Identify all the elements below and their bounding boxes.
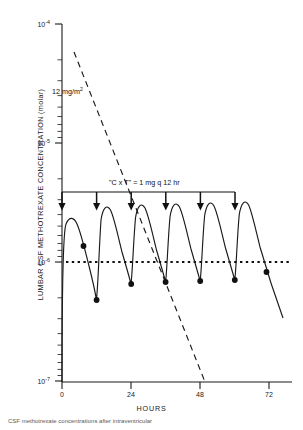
figure-container: 10-4 10-5 10-6 10-7 0 24 48 72 LUMBAR CS… [0,0,303,430]
data-point [197,278,203,284]
data-point-markers [81,243,270,303]
sustained-dose-curve [62,202,283,382]
y-tick-exp-2: -5 [45,138,50,144]
bolus-dose-annotation: 12 mg/m2 [52,86,83,96]
data-point [163,279,169,285]
bolus-dose-text: 12 mg/m [52,87,80,96]
chart-canvas [0,0,303,430]
x-ticks [62,382,269,389]
x-tick-label-0: 0 [49,391,75,398]
dose-arrow-group [58,192,238,211]
data-point [232,277,238,283]
y-minor-ticks [58,60,63,376]
y-tick-exp-1: -4 [45,19,50,25]
figure-caption: CSF methotrexate concentrations after in… [8,418,300,424]
data-point [128,281,134,287]
bolus-dose-exponent: 2 [80,86,83,92]
y-tick-label-1: 10-4 [20,19,50,28]
bolus-decay-curve [74,52,205,382]
x-axis-title: HOURS [0,404,303,413]
regimen-annotation: "C x T" = 1 mg q 12 hr [109,178,180,187]
x-tick-label-24: 24 [118,391,144,398]
data-point [94,297,100,303]
y-major-ticks [55,24,62,381]
x-tick-label-48: 48 [187,391,213,398]
y-tick-label-4: 10-7 [20,376,50,385]
y-axis-title: LUMBAR CSF METHOTREXATE CONCENTRATION (m… [36,70,45,320]
y-tick-exp-4: -7 [45,376,50,382]
y-tick-exp-3: -6 [45,257,50,263]
x-tick-label-72: 72 [256,391,282,398]
data-point [264,269,270,275]
data-point [81,243,87,249]
